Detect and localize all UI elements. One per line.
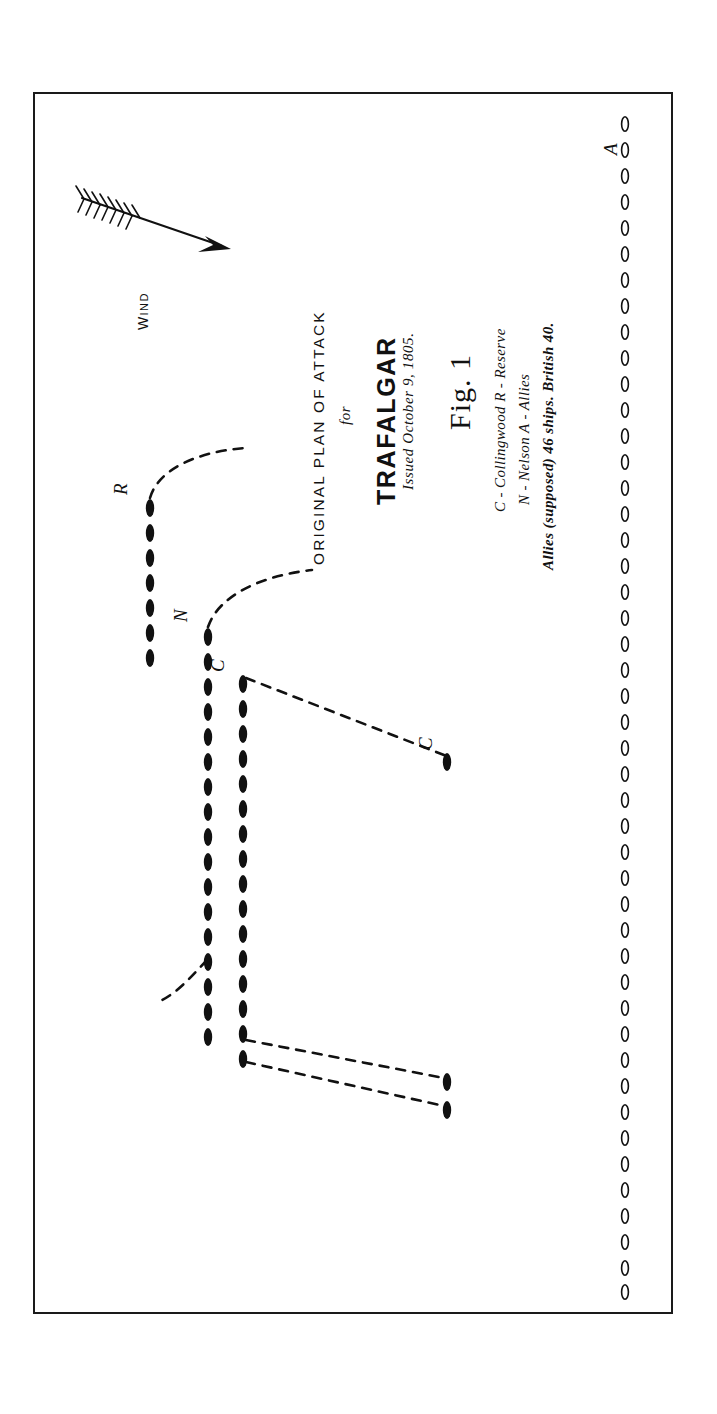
wind-label-cap: W (135, 315, 151, 330)
ship-group-nelson (204, 628, 212, 1046)
title-issued-date: Issued October 9, 1805. (400, 332, 417, 490)
fleet-label-nelson: N (170, 609, 192, 622)
figure-number: Fig. 1 (443, 354, 477, 430)
wind-label-rest: IND (138, 292, 150, 315)
ship-group-allies (622, 117, 629, 1299)
ship-collingwood-lead (443, 753, 451, 771)
legend-line-2: N - Nelson A - Allies (516, 374, 533, 505)
wind-label: WIND (135, 292, 151, 330)
wind-arrow-icon (76, 186, 231, 252)
page-title: ORIGINAL PLAN OF ATTACK (310, 310, 328, 565)
legend-line-3: Allies (supposed) 46 ships. British 40. (540, 322, 557, 570)
legend-line-1: C - Collingwood R - Reserve (492, 328, 509, 512)
title-connector: for (337, 406, 354, 425)
fleet-label-collingwood-lead: C (415, 737, 437, 750)
fleet-label-allies: A (600, 143, 622, 155)
title-trafalgar: TRAFALGAR (372, 336, 401, 505)
ship-group-reserve (146, 499, 154, 667)
course-track-detached-lower (246, 1062, 444, 1106)
course-track-nelson-mid (162, 960, 207, 1000)
trafalgar-diagram (0, 0, 717, 1414)
course-track-nelson (208, 570, 312, 627)
ship-group-collingwood (239, 675, 247, 1068)
fleet-label-collingwood-column: C (207, 659, 229, 672)
course-track-reserve (150, 448, 245, 498)
fleet-label-reserve: R (110, 483, 132, 495)
figure-page: ORIGINAL PLAN OF ATTACK for TRAFALGAR Is… (0, 0, 717, 1414)
course-track-detached-upper (246, 1040, 444, 1078)
course-tracks (150, 448, 444, 1106)
ship-group-detached-pair (443, 1073, 451, 1119)
